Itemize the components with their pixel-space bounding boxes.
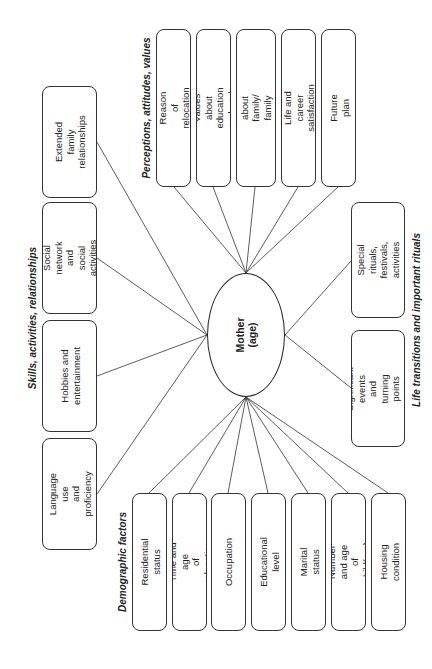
- node-label: Residential status: [138, 539, 161, 586]
- node-label: Values about family/ family relationship…: [236, 81, 276, 134]
- node-label: Special rituals, festivals, activities: [355, 242, 401, 279]
- node-special-rituals: Special rituals, festivals, activities: [351, 202, 405, 318]
- node-label: Values about education and work: [196, 87, 231, 128]
- node-housing-condition: Housing condition: [371, 493, 406, 631]
- heading-life-transitions: Life transitions and important rituals: [411, 233, 422, 407]
- node-social-network: Social network and social activities: [42, 202, 97, 314]
- node-extended-family: Extended family relationships: [42, 86, 97, 198]
- node-label: Occupation: [223, 538, 235, 586]
- node-label: Significant events and turning points in…: [351, 367, 405, 411]
- node-values-family: Values about family/ family relationship…: [236, 29, 276, 187]
- node-life-career-satisfaction: Life and career satisfaction: [281, 29, 316, 187]
- heading-skills: Skills, activities, relationships: [27, 247, 38, 389]
- node-educational-level: Educational level: [251, 493, 286, 631]
- node-number-age-children: Number and age of child(ren): [331, 493, 366, 631]
- node-residential-status: Residential status: [132, 493, 167, 631]
- node-occupation: Occupation: [211, 493, 246, 631]
- node-language-use: Language use and proficiency: [42, 438, 97, 550]
- center-node-mother: Mother (age): [207, 273, 285, 397]
- node-label: Educational level: [257, 537, 280, 587]
- node-label: Future plan: [327, 94, 350, 121]
- node-label: Reason of relocation: [156, 87, 191, 128]
- center-label: Mother (age): [235, 316, 258, 354]
- node-time-age-relocation: Time and age of relocation: [172, 493, 207, 631]
- node-label: Extended family relationships: [52, 115, 87, 168]
- node-future-plan: Future plan: [321, 29, 356, 187]
- node-hobbies: Hobbies and entertainment: [42, 320, 97, 432]
- node-values-education: Values about education and work: [196, 29, 231, 187]
- node-label: Time and age of relocation: [172, 541, 207, 582]
- node-significant-events: Significant events and turning points in…: [351, 330, 405, 447]
- node-label: Number and age of child(ren): [331, 542, 366, 582]
- node-label: Marital status: [297, 548, 320, 577]
- node-label: Social network and social activities: [42, 240, 97, 276]
- node-label: Hobbies and entertainment: [58, 347, 81, 405]
- node-label: Language use and proficiency: [47, 471, 93, 516]
- node-reason-relocation: Reason of relocation: [156, 29, 191, 187]
- heading-perceptions: Perceptions, attitudes, values: [141, 37, 152, 178]
- node-label: Housing condition: [377, 543, 400, 581]
- node-marital-status: Marital status: [291, 493, 326, 631]
- heading-demographic: Demographic factors: [117, 512, 128, 612]
- node-label: Life and career satisfaction: [281, 84, 316, 132]
